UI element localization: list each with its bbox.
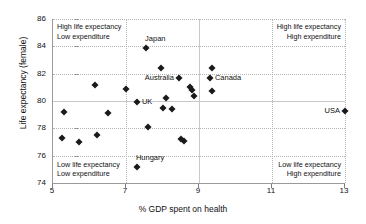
annotation-bottom-left-line2: Low expenditure (57, 169, 120, 179)
annotation-top-left-line1: High life expectancy (57, 22, 121, 32)
annotation-bottom-right: Low life expectancy High expenditure (278, 160, 341, 179)
data-point (157, 65, 164, 72)
gridline-vertical (345, 19, 346, 183)
data-point-uk (133, 99, 140, 106)
y-tick-label: 80 (37, 97, 46, 105)
annotation-top-left: High life expectancy Low expenditure (57, 22, 121, 41)
data-point (122, 85, 129, 92)
plot-area: UKHungaryJapanAustraliaCanadaUSA High li… (52, 19, 345, 184)
y-tick-label: 86 (37, 15, 46, 23)
data-point (104, 109, 111, 116)
data-point (208, 64, 215, 71)
x-tick-label: 5 (50, 187, 54, 195)
x-tick-label: 13 (340, 187, 349, 195)
x-tick-label: 9 (196, 187, 200, 195)
annotation-bottom-left-line1: Low life expectancy (57, 160, 120, 170)
data-point (168, 106, 175, 113)
quadrant-line-horizontal (53, 101, 345, 102)
data-point (75, 138, 82, 145)
data-point (93, 132, 100, 139)
x-tick-mark (271, 184, 272, 188)
x-tick-mark (125, 184, 126, 188)
y-tick-label: 76 (37, 152, 46, 160)
data-point (208, 88, 215, 95)
annotation-top-right-line2: High expenditure (277, 32, 341, 42)
data-point-label-hungary: Hungary (136, 154, 164, 162)
data-point (59, 134, 66, 141)
data-point-label-uk: UK (142, 98, 152, 106)
x-tick-mark (52, 184, 53, 188)
data-point-label-japan: Japan (145, 35, 165, 43)
data-point (159, 104, 166, 111)
data-point-hungary (133, 163, 140, 170)
y-tick-label: 82 (37, 70, 46, 78)
data-point-canada (206, 75, 213, 82)
annotation-top-right-line1: High life expectancy (277, 22, 341, 32)
annotation-top-right: High life expectancy High expenditure (277, 22, 341, 41)
annotation-top-left-line2: Low expenditure (57, 32, 121, 42)
y-tick-label: 84 (37, 42, 46, 50)
scatter-chart: Life expectancy (female) 74767880828486 … (0, 0, 366, 224)
y-tick-label: 74 (37, 179, 46, 187)
x-tick-mark (344, 184, 345, 188)
data-point-usa (341, 107, 348, 114)
y-tick-label: 78 (37, 124, 46, 132)
data-point (91, 81, 98, 88)
data-point-label-usa: USA (325, 107, 340, 115)
data-point (144, 123, 151, 130)
data-point-australia (175, 75, 182, 82)
y-axis-ticks: 74767880828486 (26, 0, 46, 224)
data-point (60, 108, 67, 115)
x-tick-mark (198, 184, 199, 188)
x-axis-title: % GDP spent on health (0, 204, 366, 214)
annotation-bottom-left: Low life expectancy Low expenditure (57, 160, 120, 179)
data-point-label-canada: Canada (215, 74, 241, 82)
annotation-bottom-right-line2: High expenditure (278, 169, 341, 179)
annotation-bottom-right-line1: Low life expectancy (278, 160, 341, 170)
x-tick-label: 7 (123, 187, 127, 195)
data-point-label-australia: Australia (145, 74, 174, 82)
x-tick-label: 11 (267, 187, 275, 195)
data-point (181, 137, 188, 144)
